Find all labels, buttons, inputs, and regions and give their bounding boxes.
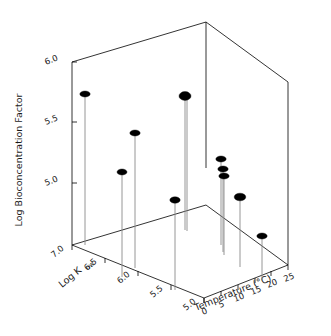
frame-top-left: [72, 22, 206, 62]
scatter3d-plot: 6.0 5.5 5.0 7.0 6.5 6.0 5.5 5.0: [0, 0, 331, 336]
z-tick-label-6.0: 6.0: [43, 53, 59, 67]
y-axis-title: Log K ow: [56, 259, 96, 289]
frame-floor-back-right: [206, 205, 288, 265]
z-axis-ticks: [72, 62, 77, 183]
y-axis-ticks: [72, 245, 204, 303]
data-point[interactable]: [80, 91, 90, 97]
y-tick-label-7.0: 7.0: [49, 243, 66, 259]
data-point[interactable]: [218, 166, 228, 172]
x-tick-label-25: 25: [282, 271, 296, 284]
data-point[interactable]: [130, 130, 140, 136]
data-point[interactable]: [257, 233, 267, 239]
data-point[interactable]: [216, 156, 226, 162]
frame-top-right: [206, 22, 288, 82]
z-axis-title: Log Bioconcentration Factor: [13, 93, 24, 226]
chart-container: 6.0 5.5 5.0 7.0 6.5 6.0 5.5 5.0: [0, 0, 331, 336]
data-point[interactable]: [117, 169, 127, 175]
plot-frame: [72, 22, 288, 298]
y-axis-title-base: Log K: [56, 264, 84, 290]
z-tick-label-5.0: 5.0: [43, 174, 59, 188]
data-point[interactable]: [234, 193, 246, 201]
z-tick-label-5.5: 5.5: [43, 113, 59, 127]
z-axis-tick-labels: 6.0 5.5 5.0: [43, 53, 59, 188]
data-point[interactable]: [179, 92, 191, 101]
y-tick-label-5.5: 5.5: [148, 283, 165, 299]
data-point[interactable]: [219, 173, 229, 179]
data-point[interactable]: [170, 197, 180, 203]
data-points: [80, 91, 267, 239]
frame-floor-back-left: [72, 205, 206, 245]
y-tick-label-6.0: 6.0: [115, 269, 132, 285]
